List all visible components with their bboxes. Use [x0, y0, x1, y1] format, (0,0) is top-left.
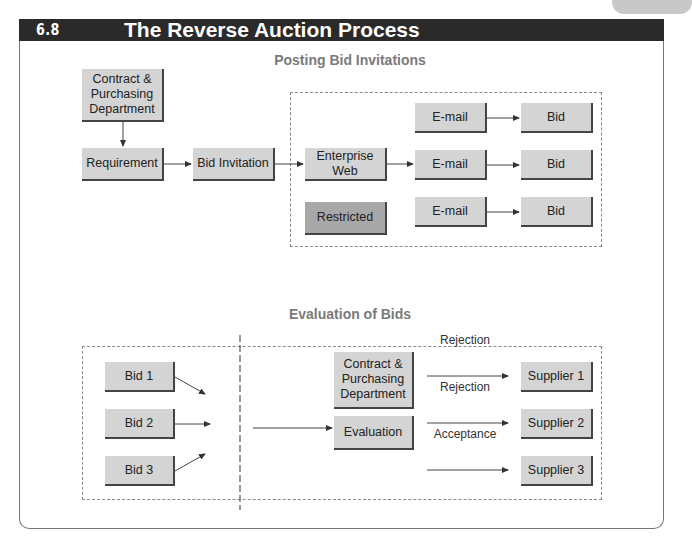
- connector-arrows: [0, 0, 678, 543]
